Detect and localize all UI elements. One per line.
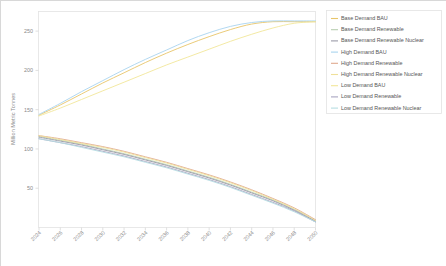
legend-entry-label[interactable]: High Demand BAU: [341, 49, 387, 55]
y-axis-tick-label: 250: [24, 28, 33, 34]
chart-page: 50100150200250 2024202620282030203220342…: [0, 0, 446, 266]
legend-entry-label[interactable]: Low Demand Renewable: [341, 93, 401, 99]
chart-canvas: 50100150200250 2024202620282030203220342…: [1, 1, 446, 266]
y-axis-tick-label: 150: [24, 107, 33, 113]
legend-entry-label[interactable]: Base Demand BAU: [341, 15, 388, 21]
line-chart-figure: 50100150200250 2024202620282030203220342…: [1, 1, 445, 265]
legend-entry-label[interactable]: Low Demand Renewable Nuclear: [341, 105, 422, 111]
y-axis-tick-label: 100: [24, 146, 33, 152]
y-axis-tick-label: 50: [27, 185, 33, 191]
y-axis-tick-label: 200: [24, 67, 33, 73]
y-axis-title: Million Metric Tonnes: [10, 93, 16, 145]
legend-entry-label[interactable]: Base Demand Renewable Nuclear: [341, 37, 424, 43]
legend-entry-label[interactable]: High Demand Renewable Nuclear: [341, 71, 423, 77]
legend-entry-label[interactable]: High Demand Renewable: [341, 60, 402, 66]
legend-entry-label[interactable]: Low Demand BAU: [341, 82, 385, 88]
legend-entry-label[interactable]: Base Demand Renewable: [341, 26, 404, 32]
